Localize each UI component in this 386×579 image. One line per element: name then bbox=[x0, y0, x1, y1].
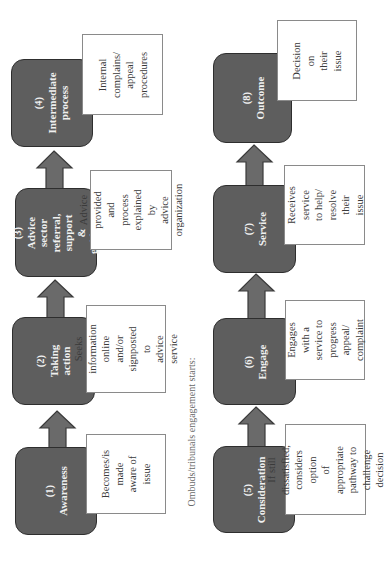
step-number: (5) bbox=[242, 456, 255, 523]
step-title: Outcome bbox=[253, 77, 266, 120]
description-text: Receives service to help/ resolve their … bbox=[284, 185, 365, 225]
step-description-intermediate-process: Internal complains/ appeal procedures bbox=[82, 34, 163, 115]
step-description-engage: Engages with a service to progress appea… bbox=[285, 300, 365, 380]
step-description-service: Receives service to help/ resolve their … bbox=[284, 165, 365, 245]
step-title: Taking action bbox=[47, 341, 72, 382]
step-title: Engage bbox=[255, 344, 268, 379]
step-title: Intermediate process bbox=[46, 72, 71, 133]
step-description-outcome: Decision on their issue bbox=[277, 20, 357, 101]
step-title: Service bbox=[255, 212, 268, 246]
step-description-advice-sector: Advice provided and process explained by… bbox=[90, 170, 172, 250]
description-text: Engages with a service to progress appea… bbox=[285, 319, 366, 361]
step-description-consideration: If still dissatisfied, considers option … bbox=[285, 424, 366, 515]
arrow-up-icon bbox=[237, 272, 277, 320]
description-text: Decision on their issue bbox=[290, 41, 344, 80]
section-caption: Ombuds/tribunals engagement starts: bbox=[186, 358, 197, 507]
step-number: (3) bbox=[12, 211, 25, 253]
step-intermediate-process: (4) Intermediate process bbox=[11, 59, 93, 147]
step-number: (1) bbox=[44, 466, 57, 516]
step-number: (7) bbox=[242, 212, 255, 246]
step-number: (8) bbox=[240, 77, 253, 120]
step-number: (4) bbox=[33, 72, 46, 133]
step-awareness: (1) Awareness bbox=[15, 447, 97, 535]
arrow-up-icon bbox=[235, 143, 275, 187]
description-text: Seeks information online and/or signpost… bbox=[72, 324, 180, 374]
description-text: If still dissatisfied, considers option … bbox=[265, 445, 386, 495]
description-text: Advice provided and process explained by… bbox=[77, 184, 185, 236]
arrow-up-icon bbox=[38, 409, 78, 449]
step-description-taking-action: Seeks information online and/or signpost… bbox=[86, 305, 166, 393]
step-number: (2) bbox=[35, 341, 48, 382]
step-title: Awareness bbox=[56, 466, 69, 516]
arrow-up-icon bbox=[35, 149, 75, 191]
description-text: Internal complains/ appeal procedures bbox=[96, 51, 150, 97]
step-description-awareness: Becomes/is made aware of issue bbox=[86, 434, 166, 514]
arrow-up-icon bbox=[36, 278, 76, 320]
description-text: Becomes/is made aware of issue bbox=[99, 450, 153, 498]
step-number: (6) bbox=[242, 344, 255, 379]
arrow-up-icon bbox=[237, 405, 277, 448]
